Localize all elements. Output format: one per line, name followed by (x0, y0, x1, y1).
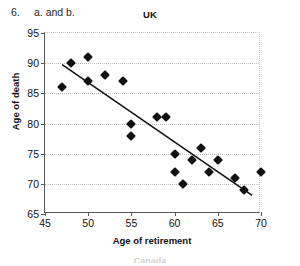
data-point (170, 149, 180, 159)
data-point (239, 185, 249, 195)
figure-header: 6. a. and b. UK (0, 0, 300, 26)
y-axis-tick-label: 70 (27, 178, 39, 190)
data-point (256, 167, 266, 177)
x-axis-tick (45, 212, 46, 216)
y-axis-tick-label: 80 (27, 118, 39, 130)
x-axis-tick-label: 50 (82, 217, 94, 229)
x-axis-tick (131, 212, 132, 216)
data-point (230, 173, 240, 183)
x-axis-tick (261, 212, 262, 216)
x-axis-tick (218, 212, 219, 216)
x-axis-tick (88, 212, 89, 216)
y-axis-tick-label: 75 (27, 148, 39, 160)
x-axis-tick (175, 212, 176, 216)
data-point (126, 131, 136, 141)
plot-area: 65707580859095455055606570 (44, 32, 260, 213)
x-axis-tick-label: 70 (255, 217, 267, 229)
data-points-layer (45, 33, 259, 212)
x-axis-tick-label: 60 (169, 217, 181, 229)
data-point (101, 70, 111, 80)
data-point (126, 119, 136, 129)
y-axis-tick-label: 95 (27, 27, 39, 39)
x-axis-title: Age of retirement (44, 235, 260, 246)
data-point (83, 52, 93, 62)
scatter-chart-figure: Age of death 65707580859095455055606570 … (0, 24, 300, 266)
y-axis-tick-label: 90 (27, 57, 39, 69)
data-point (178, 179, 188, 189)
data-point (83, 76, 93, 86)
data-point (118, 76, 128, 86)
x-axis-tick-label: 55 (126, 217, 138, 229)
data-point (196, 143, 206, 153)
data-point (57, 82, 67, 92)
data-point (161, 113, 171, 123)
data-point (66, 58, 76, 68)
adjacent-figure-bleed-label: Canada (0, 256, 300, 263)
chart-title: UK (0, 9, 300, 20)
data-point (170, 167, 180, 177)
data-point (187, 155, 197, 165)
x-axis-tick-label: 65 (212, 217, 224, 229)
y-axis-tick-label: 85 (27, 87, 39, 99)
y-axis-title: Age of death (10, 62, 21, 142)
data-point (204, 167, 214, 177)
y-axis-tick-label: 65 (27, 208, 39, 220)
data-point (213, 155, 223, 165)
x-axis-tick-label: 45 (39, 217, 51, 229)
